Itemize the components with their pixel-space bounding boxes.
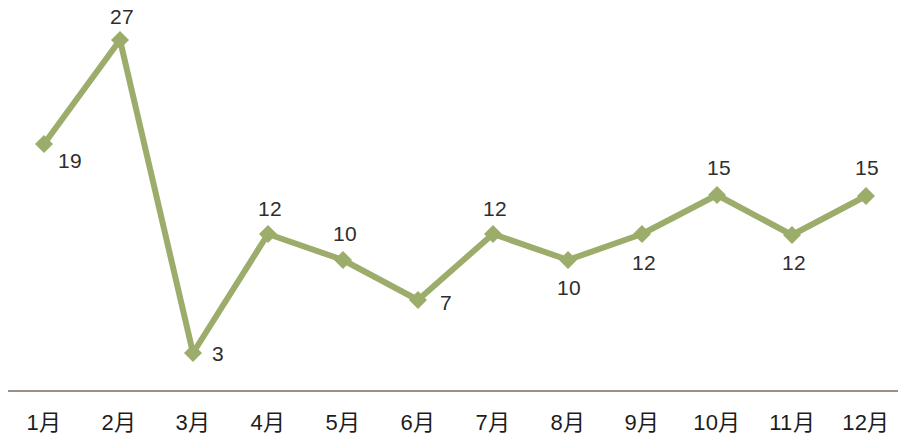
data-point-label: 12 (258, 198, 282, 219)
x-axis-tick-label: 2月 (102, 412, 137, 434)
data-point-label: 12 (632, 252, 656, 273)
data-point-label: 3 (212, 343, 224, 364)
x-axis-tick-label: 3月 (176, 412, 211, 434)
x-axis-tick-label: 9月 (625, 412, 660, 434)
data-point-label: 12 (782, 252, 806, 273)
data-point-label: 10 (557, 277, 581, 298)
data-point-label: 19 (58, 150, 82, 171)
line-chart: 1927312107121012151215 1月2月3月4月5月6月7月8月9… (0, 0, 898, 446)
data-point-label: 10 (333, 223, 357, 244)
series-markers (35, 31, 875, 362)
data-point-marker (559, 251, 577, 269)
x-axis-tick-label: 4月 (251, 412, 286, 434)
series-line (44, 40, 866, 353)
x-axis-tick-label: 7月 (476, 412, 511, 434)
data-point-label: 15 (855, 157, 879, 178)
x-axis-tick-label: 10月 (693, 412, 740, 434)
data-point-label: 15 (707, 157, 731, 178)
data-point-label: 7 (440, 292, 452, 313)
x-axis-line (8, 390, 898, 392)
x-axis-tick-label: 12月 (842, 412, 889, 434)
x-axis-tick-label: 6月 (401, 412, 436, 434)
x-axis-tick-label: 8月 (551, 412, 586, 434)
data-point-label: 12 (483, 198, 507, 219)
x-axis-tick-label: 11月 (769, 412, 815, 434)
chart-plot-area (0, 0, 898, 446)
data-point-label: 27 (110, 6, 134, 27)
x-axis-tick-label: 1月 (27, 412, 62, 434)
x-axis-tick-label: 5月 (326, 412, 361, 434)
